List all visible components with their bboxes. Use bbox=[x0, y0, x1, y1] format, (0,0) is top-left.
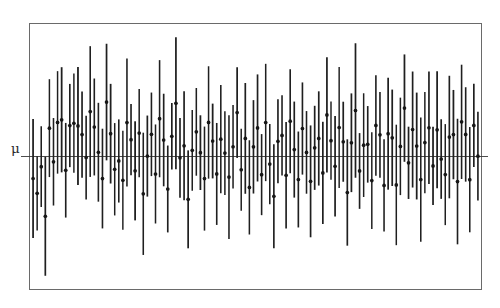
confidence-interval-figure: μ bbox=[0, 0, 500, 308]
plot-frame bbox=[29, 23, 482, 290]
mu-axis-label: μ bbox=[11, 142, 20, 156]
